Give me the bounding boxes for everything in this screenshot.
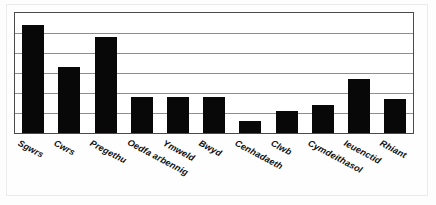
plot-area bbox=[14, 12, 414, 134]
bar bbox=[22, 25, 44, 133]
bar bbox=[276, 111, 298, 133]
bar bbox=[384, 99, 406, 133]
x-axis-labels: SgwrsCwrsPregethuOedfa arbennigYmweldBwy… bbox=[0, 134, 436, 205]
bar bbox=[239, 121, 261, 133]
bar-label: Cwrs bbox=[52, 138, 76, 157]
gridline bbox=[15, 53, 413, 54]
bar-label: Oedfa arbennig bbox=[126, 138, 192, 179]
bar-label: Clwb bbox=[269, 138, 293, 157]
bar bbox=[348, 79, 370, 133]
bar bbox=[167, 97, 189, 133]
bar-label: Bwyd bbox=[197, 138, 223, 158]
bar-label: Rhiant bbox=[378, 138, 408, 160]
bar-label: Sgwrs bbox=[16, 138, 45, 160]
chart-figure: SgwrsCwrsPregethuOedfa arbennigYmweldBwy… bbox=[0, 0, 436, 205]
bar bbox=[58, 67, 80, 133]
gridline bbox=[15, 33, 413, 34]
bar bbox=[95, 37, 117, 133]
bar bbox=[312, 105, 334, 133]
bar-label: Pregethu bbox=[88, 138, 128, 166]
bar bbox=[131, 97, 153, 133]
bar bbox=[203, 97, 225, 133]
